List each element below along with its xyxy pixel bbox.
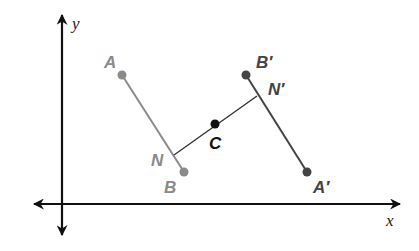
point-a: [118, 71, 127, 80]
x-axis-label: x: [385, 211, 394, 230]
label-a-prime: A′: [312, 178, 330, 197]
label-a: A: [103, 53, 116, 72]
point-a-prime: [303, 168, 312, 177]
label-n: N: [151, 151, 164, 170]
diagram-canvas: y x A B N C B′ N′ A′: [0, 0, 419, 251]
coordinate-plane: y x A B N C B′ N′ A′: [0, 0, 419, 251]
label-n-prime: N′: [268, 80, 285, 99]
label-b-prime: B′: [256, 53, 273, 72]
point-c: [211, 120, 220, 129]
point-b-prime: [242, 71, 251, 80]
label-b: B: [164, 178, 176, 197]
point-b: [180, 168, 189, 177]
y-axis-label: y: [70, 14, 80, 33]
label-c: C: [209, 134, 222, 153]
